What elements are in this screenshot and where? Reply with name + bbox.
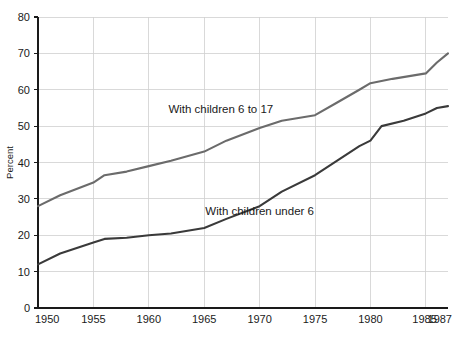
y-tick-label-40: 40	[18, 157, 30, 169]
x-tick-label-1960: 1960	[137, 313, 161, 325]
gridlines-horizontal	[38, 17, 448, 272]
series-label-1: With children 6 to 17	[168, 103, 273, 115]
y-tick-labels: 01020304050607080	[18, 11, 30, 314]
series-line-1	[38, 53, 448, 206]
line-chart: 01020304050607080 1950195519601965197019…	[0, 0, 466, 339]
y-tick-label-30: 30	[18, 193, 30, 205]
y-tick-label-20: 20	[18, 229, 30, 241]
y-tick-label-0: 0	[24, 302, 30, 314]
y-tick-label-10: 10	[18, 266, 30, 278]
x-tick-label-1987: 1987	[428, 313, 452, 325]
data-series	[38, 53, 448, 264]
x-tick-label-1970: 1970	[247, 313, 271, 325]
chart-canvas: 01020304050607080 1950195519601965197019…	[0, 0, 466, 339]
y-axis-title: Percent	[4, 146, 15, 179]
y-tick-label-60: 60	[18, 84, 30, 96]
series-annotations: With children 6 to 17With children under…	[168, 103, 314, 217]
x-tick-label-1955: 1955	[81, 313, 105, 325]
y-tick-label-80: 80	[18, 11, 30, 23]
y-axis-title-group: Percent	[4, 146, 15, 179]
x-tick-label-1980: 1980	[358, 313, 382, 325]
x-tick-label-1950: 1950	[35, 313, 59, 325]
x-tick-label-1975: 1975	[303, 313, 327, 325]
x-tick-labels: 195019551960196519701975198019851987	[35, 313, 452, 325]
series-line-2	[38, 106, 448, 264]
y-tick-label-70: 70	[18, 47, 30, 59]
y-tick-label-50: 50	[18, 120, 30, 132]
series-label-2: With children under 6	[205, 205, 314, 217]
x-tick-label-1965: 1965	[192, 313, 216, 325]
